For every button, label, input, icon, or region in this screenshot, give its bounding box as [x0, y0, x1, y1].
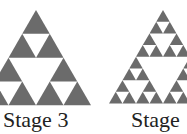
stage-4-label: Stage [131, 107, 180, 133]
sierpinski-triangle-stage-3 [0, 10, 91, 105]
sierpinski-triangle-stage-4 [109, 10, 187, 104]
stage-3-label: Stage 3 [3, 107, 68, 133]
